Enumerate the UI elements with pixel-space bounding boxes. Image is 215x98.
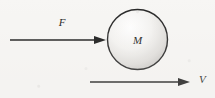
force-arrow [10, 36, 106, 44]
diagram-canvas: F M V [0, 0, 215, 98]
force-arrow-head [94, 36, 106, 44]
velocity-arrow-head [178, 78, 190, 86]
velocity-arrow [90, 78, 190, 86]
physics-diagram-figure: F M V [0, 0, 215, 98]
velocity-label: V [199, 73, 207, 85]
mass-label: M [132, 34, 143, 46]
force-label: F [58, 16, 66, 28]
